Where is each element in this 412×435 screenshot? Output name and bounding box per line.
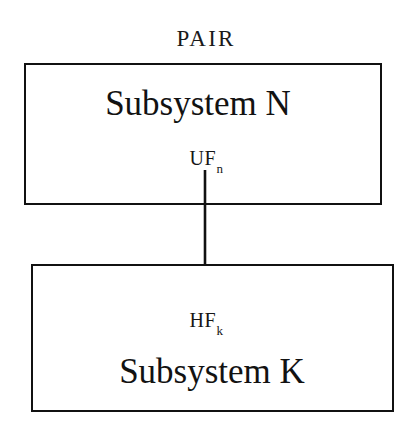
hf-subscript: k	[216, 323, 223, 338]
pair-diagram: PAIR Subsystem N UFn HFk Subsystem K	[0, 0, 412, 435]
diagram-title: PAIR	[0, 25, 412, 53]
subsystem-n-label: Subsystem N	[0, 84, 404, 124]
hf-k-flow-label: HFk	[0, 308, 412, 340]
uf-base: UF	[190, 147, 216, 169]
uf-n-flow-label: UFn	[0, 146, 412, 178]
hf-base: HF	[190, 309, 216, 331]
subsystem-k-label: Subsystem K	[6, 352, 412, 392]
uf-subscript: n	[216, 161, 223, 176]
